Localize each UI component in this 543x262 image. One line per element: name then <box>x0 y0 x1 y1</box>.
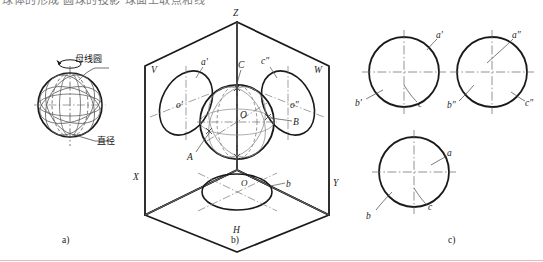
caption-a: a) <box>62 235 69 246</box>
caption-c: c) <box>448 235 455 246</box>
bottom-rule <box>0 260 543 261</box>
point-a-label: A <box>186 152 193 162</box>
figure-root: 球体的形成 圆球的投影 球面上取点和线 <box>0 0 543 262</box>
part-a-group: 母线圆 直径 a) <box>34 53 115 246</box>
view-side-c: a″ b″ c″ <box>447 30 534 114</box>
side-view-label-a: a″ <box>512 30 522 40</box>
top-view-label-b: b <box>366 211 371 221</box>
leader-generating-circle <box>79 68 109 80</box>
point-b-label: B <box>293 117 299 127</box>
view-front-c: a' b' c' <box>355 30 446 114</box>
point-c-label: C <box>238 60 245 70</box>
top-view-label-a: a <box>447 148 452 158</box>
coordinate-axes-b <box>145 22 329 215</box>
axis-y-label: Y <box>333 178 340 188</box>
front-view-label-c: c' <box>418 99 425 109</box>
side-view-label-c: c″ <box>525 98 534 108</box>
top-view-label-c: c <box>428 202 433 212</box>
part-b-group: Z X Y V W H a' o' c″ <box>132 8 340 252</box>
sphere-center-label-b: O <box>240 110 247 120</box>
view-top-c: a b c <box>366 130 456 221</box>
front-view-label-b: b' <box>355 98 363 108</box>
front-ellipse-label: a' <box>201 57 209 67</box>
top-center-label: O <box>241 178 248 188</box>
caption-b: b) <box>231 235 239 246</box>
front-view-label-a: a' <box>436 30 444 40</box>
top-ellipse-label: b <box>286 179 291 189</box>
front-center-label: o' <box>176 100 184 110</box>
plane-w-label: W <box>314 65 323 75</box>
label-diameter: 直径 <box>97 135 115 146</box>
axis-z-label: Z <box>233 8 239 18</box>
axis-x-label: X <box>132 172 140 182</box>
side-center-label: o″ <box>290 100 300 110</box>
side-view-label-b: b″ <box>447 100 457 110</box>
part-c-group: a' b' c' a″ b″ c″ <box>355 30 534 246</box>
plane-v-label: V <box>151 65 158 75</box>
technical-drawing-canvas: 母线圆 直径 a) <box>0 0 543 262</box>
side-ellipse-label: c″ <box>261 56 270 66</box>
label-generating-circle: 母线圆 <box>75 53 102 64</box>
plane-h-label: H <box>232 225 241 235</box>
